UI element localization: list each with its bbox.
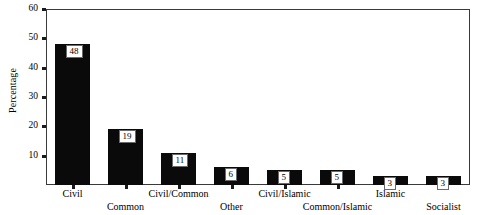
x-category-label: Civil (62, 188, 82, 200)
x-category-label: Common (107, 201, 144, 213)
y-tick-label: 10 (29, 149, 39, 161)
y-tick: 50 (0, 38, 46, 39)
bar-chart: Percentage 102030405060 48191165533 Civi… (0, 0, 484, 215)
y-tick-mark (42, 96, 46, 99)
bar-value-label: 3 (437, 177, 450, 190)
bar-value-label: 19 (119, 130, 136, 143)
y-tick-label: 60 (29, 2, 39, 14)
bar-value-label: 5 (278, 171, 291, 184)
y-tick-label: 30 (29, 90, 39, 102)
x-category-label: Socialist (426, 201, 460, 213)
y-tick: 40 (0, 68, 46, 69)
x-category-label: Other (220, 201, 243, 213)
y-tick-mark (42, 67, 46, 70)
y-tick-mark (42, 37, 46, 40)
y-tick: 10 (0, 156, 46, 157)
y-tick-mark (42, 155, 46, 158)
y-axis-title: Percentage (7, 46, 18, 136)
x-category-label: Common/Islamic (303, 201, 372, 213)
y-tick: 60 (0, 9, 46, 10)
x-tick-mark (231, 185, 234, 189)
x-tick-mark (337, 185, 340, 189)
x-category-label: Civil/Islamic (258, 188, 310, 200)
x-tick-mark (125, 185, 128, 189)
bar-value-label: 5 (331, 171, 344, 184)
y-tick-mark (42, 8, 46, 11)
y-tick: 30 (0, 97, 46, 98)
y-tick-label: 20 (29, 119, 39, 131)
y-tick-label: 50 (29, 31, 39, 43)
y-tick-mark (42, 125, 46, 128)
x-category-label: Civil/Common (148, 188, 208, 200)
bar-value-label: 11 (172, 154, 189, 167)
bar-value-label: 6 (225, 168, 238, 181)
y-tick: 20 (0, 126, 46, 127)
bar-value-label: 48 (66, 45, 83, 58)
bar (55, 44, 90, 185)
y-tick-label: 40 (29, 61, 39, 73)
x-category-label: Islamic (376, 188, 405, 200)
